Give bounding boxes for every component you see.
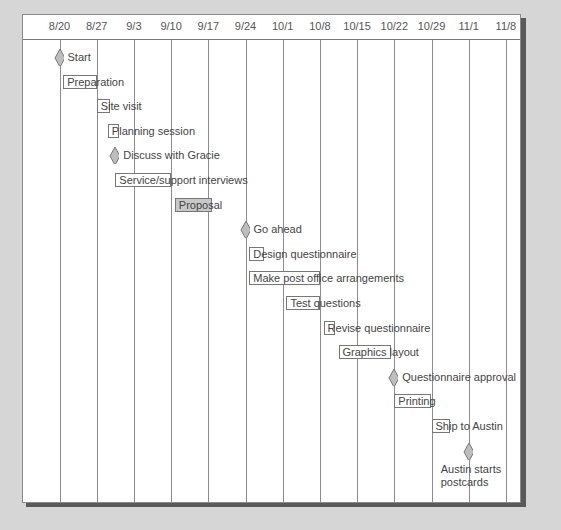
task-label: Test questions [290, 296, 360, 310]
date-tick-label: 10/15 [343, 20, 371, 32]
task-label: Service/support interviews [119, 173, 247, 187]
task-label: Site visit [101, 99, 142, 113]
date-tick-label: 9/3 [126, 20, 141, 32]
week-gridline [208, 40, 209, 502]
milestone-label: Go ahead [254, 223, 302, 236]
milestone-label: Questionnaire approval [402, 371, 516, 384]
date-tick-label: 10/29 [418, 20, 446, 32]
gantt-chart-panel: 8/208/279/39/109/179/2410/110/810/1510/2… [22, 14, 521, 503]
task-label: Proposal [179, 198, 222, 212]
task-label: Revise questionnaire [328, 321, 431, 335]
milestone-label: Discuss with Gracie [123, 149, 220, 162]
date-tick-label: 8/20 [49, 20, 70, 32]
date-tick-label: 9/17 [198, 20, 219, 32]
date-tick-label: 10/1 [272, 20, 293, 32]
date-tick-label: 11/8 [496, 20, 517, 32]
task-label: Design questionnaire [253, 247, 356, 261]
task-label: Printing [398, 394, 435, 408]
milestone-diamond-icon [463, 442, 473, 460]
task-label: Planning session [112, 124, 195, 138]
task-label: Graphics layout [343, 345, 419, 359]
milestone-diamond-icon [240, 220, 250, 238]
date-tick-label: 9/24 [235, 20, 256, 32]
task-label: Preparation [67, 75, 124, 89]
week-gridline [60, 40, 61, 502]
date-tick-label: 8/27 [86, 20, 107, 32]
week-gridline [246, 40, 247, 502]
week-gridline [506, 40, 507, 502]
date-tick-label: 10/22 [381, 20, 409, 32]
date-tick-label: 10/8 [309, 20, 330, 32]
task-label: Ship to Austin [436, 419, 503, 433]
milestone-diamond-icon [109, 146, 119, 164]
milestone-label: Start [68, 51, 91, 64]
date-tick-label: 9/10 [160, 20, 181, 32]
task-label: Make post office arrangements [253, 271, 404, 285]
milestone-label: Austin starts postcards [441, 463, 511, 489]
date-header: 8/208/279/39/109/179/2410/110/810/1510/2… [23, 15, 520, 40]
date-tick-label: 11/1 [458, 20, 479, 32]
milestone-diamond-icon [388, 368, 398, 386]
week-gridline [171, 40, 172, 502]
milestone-diamond-icon [54, 48, 64, 66]
